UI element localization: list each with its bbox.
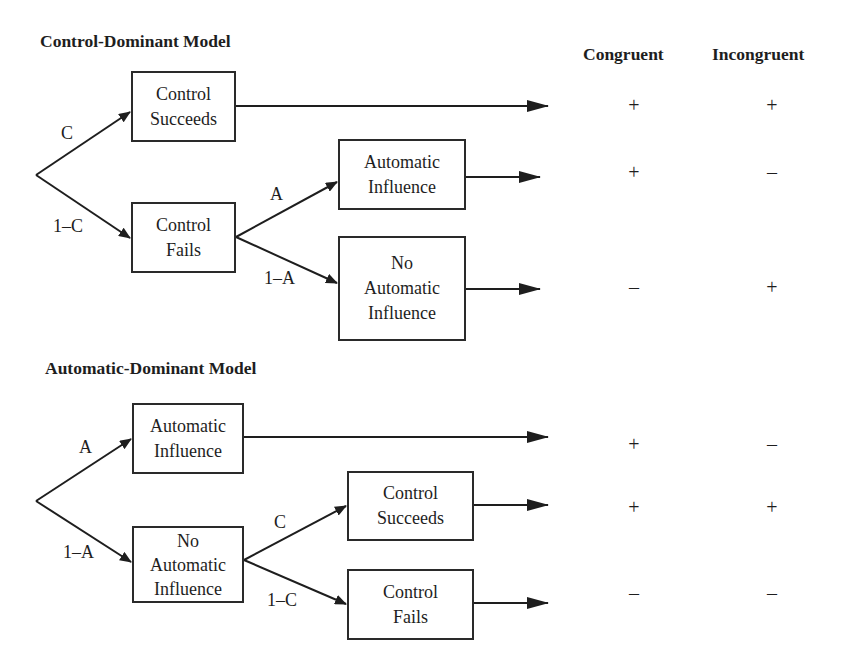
sign-congruent: + <box>619 433 649 456</box>
branch-label-1-c: 1–C <box>267 590 297 611</box>
box-text: Influence <box>154 439 222 464</box>
box-control-fails: Control Fails <box>347 569 474 640</box>
branch-label-1-a: 1–A <box>63 542 94 563</box>
sign-congruent: + <box>619 94 649 117</box>
sign-congruent: + <box>619 496 649 519</box>
column-header-congruent: Congruent <box>583 44 664 65</box>
box-no-automatic-influence: No Automatic Influence <box>338 236 466 341</box>
branch-label-a: A <box>79 437 92 458</box>
box-text: Automatic <box>364 150 440 175</box>
box-text: Automatic <box>364 276 440 301</box>
box-text: Automatic <box>150 414 226 439</box>
box-text: Control <box>383 481 438 506</box>
branch-label-a: A <box>270 184 283 205</box>
box-text: Control <box>156 82 211 107</box>
box-text: Influence <box>368 301 436 326</box>
sign-incongruent: – <box>757 161 787 184</box>
box-control-succeeds: Control Succeeds <box>131 71 236 142</box>
box-text: No <box>177 529 199 553</box>
branch-label-1-a: 1–A <box>264 268 295 289</box>
sign-congruent: – <box>619 276 649 299</box>
box-text: Control <box>383 580 438 605</box>
branch-a-arrow <box>236 182 337 237</box>
sign-incongruent: + <box>757 496 787 519</box>
box-automatic-influence: Automatic Influence <box>338 139 466 210</box>
box-control-succeeds: Control Succeeds <box>347 471 474 541</box>
branch-c-arrow <box>36 112 130 175</box>
box-control-fails: Control Fails <box>131 202 236 273</box>
sign-incongruent: + <box>757 94 787 117</box>
sign-incongruent: – <box>757 582 787 605</box>
section-title-control-dominant: Control-Dominant Model <box>40 31 231 52</box>
branch-label-c: C <box>61 123 73 144</box>
box-text: Succeeds <box>150 107 217 132</box>
branch-label-1-c: 1–C <box>53 216 83 237</box>
column-header-incongruent: Incongruent <box>712 44 804 65</box>
box-text: Fails <box>393 605 428 630</box>
sign-congruent: + <box>619 161 649 184</box>
box-text: Fails <box>166 238 201 263</box>
box-text: Succeeds <box>377 506 444 531</box>
sign-congruent: – <box>619 582 649 605</box>
branch-label-c: C <box>274 512 286 533</box>
branch-c-arrow <box>244 506 346 560</box>
section-title-automatic-dominant: Automatic-Dominant Model <box>45 358 256 379</box>
box-automatic-influence: Automatic Influence <box>132 403 244 474</box>
sign-incongruent: – <box>757 433 787 456</box>
sign-incongruent: + <box>757 276 787 299</box>
box-text: Automatic <box>150 553 226 577</box>
box-text: No <box>391 251 413 276</box>
box-text: Influence <box>368 175 436 200</box>
box-text: Control <box>156 213 211 238</box>
box-text: Influence <box>154 577 222 601</box>
box-no-automatic-influence: No Automatic Influence <box>132 526 244 603</box>
